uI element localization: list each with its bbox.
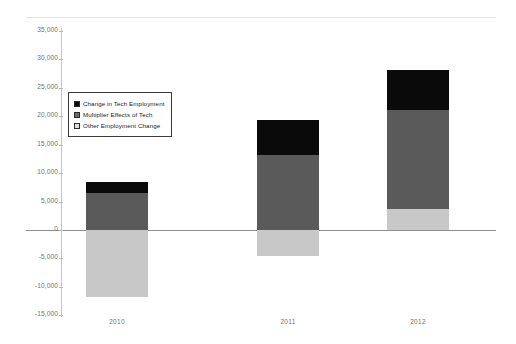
y-tick-mark	[59, 59, 63, 60]
y-tick-label: 15,000	[0, 140, 58, 150]
x-tick-label-2011: 2011	[228, 318, 348, 325]
bar-segment-tech-2012[interactable]	[387, 70, 449, 110]
bar-segment-other-2012[interactable]	[387, 209, 449, 230]
legend-item-multiplier-effects-of-tech: Multiplier Effects of Tech	[74, 109, 165, 120]
chart-figure: 35,00030,00025,00020,00015,00010,0005,00…	[0, 0, 516, 344]
y-tick-label: -15,000	[0, 310, 58, 320]
y-tick-label: 20,000	[0, 111, 58, 121]
legend-swatch-other-icon	[74, 123, 80, 129]
bar-segment-other-2010[interactable]	[86, 230, 148, 297]
y-tick-label: 10,000	[0, 168, 58, 178]
x-tick-label-2010: 2010	[57, 318, 177, 325]
legend-item-other-employment-change: Other Employment Change	[74, 120, 165, 131]
y-tick-mark	[59, 31, 63, 32]
bar-segment-multiplier-2010[interactable]	[86, 193, 148, 230]
bar-segment-multiplier-2012[interactable]	[387, 110, 449, 209]
y-tick-mark	[59, 202, 63, 203]
y-tick-mark	[59, 173, 63, 174]
y-tick-label: 25,000	[0, 83, 58, 93]
y-tick-mark	[59, 315, 63, 316]
bar-column-2010[interactable]	[86, 0, 148, 344]
legend-swatch-tech-icon	[74, 101, 80, 107]
y-tick-mark	[59, 88, 63, 89]
y-tick-mark	[59, 230, 63, 231]
legend-label-multiplier: Multiplier Effects of Tech	[83, 111, 152, 118]
bar-segment-multiplier-2011[interactable]	[257, 155, 319, 230]
y-tick-label: -10,000	[0, 282, 58, 292]
y-tick-mark	[59, 287, 63, 288]
y-tick-label: -5,000	[0, 253, 58, 263]
legend-item-change-in-tech-employment: Change in Tech Employment	[74, 98, 165, 109]
y-tick-mark	[59, 258, 63, 259]
y-tick-label: 35,000	[0, 26, 58, 36]
bar-segment-other-2011[interactable]	[257, 230, 319, 256]
legend-swatch-multiplier-icon	[74, 112, 80, 118]
bar-column-2011[interactable]	[257, 0, 319, 344]
y-tick-mark	[59, 116, 63, 117]
legend-label-other: Other Employment Change	[83, 122, 160, 129]
bar-segment-tech-2010[interactable]	[86, 182, 148, 193]
x-tick-label-2012: 2012	[358, 318, 478, 325]
bar-segment-tech-2011[interactable]	[257, 120, 319, 155]
y-tick-mark	[59, 145, 63, 146]
y-tick-label: 0	[0, 225, 58, 235]
legend-label-tech: Change in Tech Employment	[83, 100, 165, 107]
bar-column-2012[interactable]	[387, 0, 449, 344]
y-tick-label: 5,000	[0, 197, 58, 207]
y-tick-label: 30,000	[0, 54, 58, 64]
chart-legend: Change in Tech Employment Multiplier Eff…	[68, 92, 172, 137]
